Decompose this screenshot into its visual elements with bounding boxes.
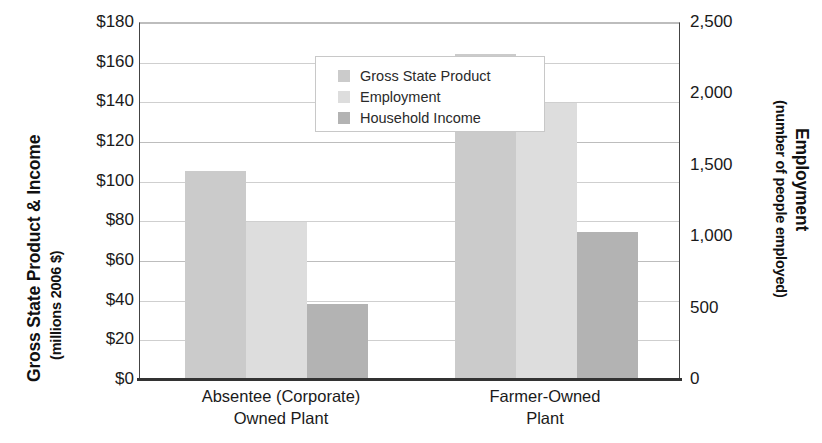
legend-item: Gross State Product <box>338 65 544 86</box>
right-axis-tick-labels: 2,5002,0001,5001,0005000 <box>690 0 780 400</box>
category-label-absentee: Absentee (Corporate) Owned Plant <box>156 386 406 430</box>
axis-tick-label: 2,500 <box>690 13 733 30</box>
right-axis-title-line1: Employment <box>791 128 812 231</box>
bar <box>246 222 307 379</box>
axis-tick-label: $20 <box>106 330 134 347</box>
legend-item: Employment <box>338 86 544 107</box>
axis-tick-label: $180 <box>96 13 134 30</box>
legend-swatch-icon <box>338 112 350 124</box>
legend-item-label: Employment <box>360 89 441 105</box>
axis-tick-label: $60 <box>106 251 134 268</box>
legend-item-label: Gross State Product <box>360 68 491 84</box>
left-axis-tick-labels: $180$160$140$120$100$80$60$40$20$0 <box>62 0 134 400</box>
legend-swatch-icon <box>338 91 350 103</box>
left-axis-title: Gross State Product & Income (millions 2… <box>0 0 60 400</box>
axis-tick-label: $120 <box>96 132 134 149</box>
axis-tick-label: 1,000 <box>690 227 733 244</box>
legend: Gross State Product Employment Household… <box>315 56 545 132</box>
category-label-line2: Plant <box>430 408 660 430</box>
legend-item: Household Income <box>338 107 544 128</box>
axis-tick-label: 1,500 <box>690 156 733 173</box>
x-axis-baseline <box>137 378 682 381</box>
bar-chart: Gross State Product & Income (millions 2… <box>0 0 822 443</box>
left-axis-title-line1: Gross State Product & Income <box>24 135 45 382</box>
legend-swatch-icon <box>338 70 350 82</box>
axis-tick-label: $140 <box>96 92 134 109</box>
axis-tick-label: 500 <box>690 299 718 316</box>
bar <box>577 232 638 379</box>
axis-tick-label: $100 <box>96 172 134 189</box>
category-label-line2: Owned Plant <box>156 408 406 430</box>
plot-area: Gross State Product Employment Household… <box>139 22 680 379</box>
category-label-farmer-owned: Farmer-Owned Plant <box>430 386 660 430</box>
axis-tick-label: $0 <box>115 370 134 387</box>
axis-tick-label: $160 <box>96 53 134 70</box>
axis-tick-label: $40 <box>106 291 134 308</box>
bar <box>516 103 577 379</box>
axis-tick-label: 0 <box>690 370 699 387</box>
category-label-line1: Farmer-Owned <box>430 386 660 408</box>
legend-item-label: Household Income <box>360 110 481 126</box>
category-label-line1: Absentee (Corporate) <box>156 386 406 408</box>
bar <box>307 304 368 379</box>
axis-tick-label: $80 <box>106 211 134 228</box>
bar <box>185 171 246 379</box>
axis-tick-label: 2,000 <box>690 84 733 101</box>
